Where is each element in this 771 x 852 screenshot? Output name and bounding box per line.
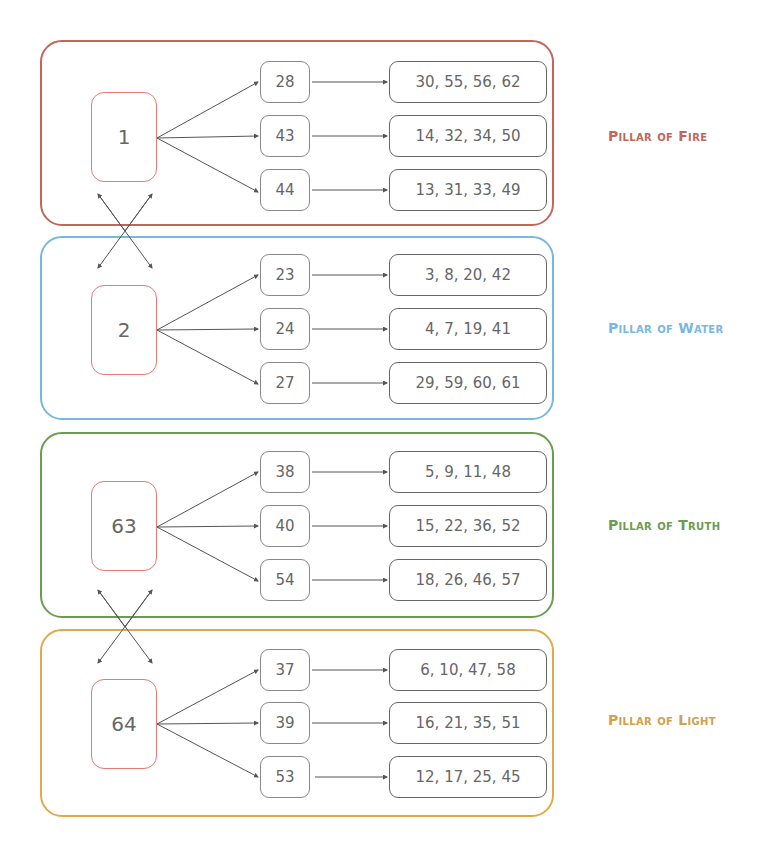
mid-node: 37 bbox=[260, 649, 310, 691]
mid-node: 44 bbox=[260, 169, 310, 211]
mid-node: 38 bbox=[260, 451, 310, 493]
leaf-node: 13, 31, 33, 49 bbox=[389, 169, 547, 211]
mid-node: 28 bbox=[260, 61, 310, 103]
mid-node: 53 bbox=[260, 756, 310, 798]
mid-node: 27 bbox=[260, 362, 310, 404]
root-node-fire: 1 bbox=[91, 92, 157, 182]
mid-node: 54 bbox=[260, 559, 310, 601]
mid-node: 39 bbox=[260, 702, 310, 744]
mid-node: 43 bbox=[260, 115, 310, 157]
leaf-node: 18, 26, 46, 57 bbox=[389, 559, 547, 601]
root-node-water: 2 bbox=[91, 285, 157, 375]
leaf-node: 6, 10, 47, 58 bbox=[389, 649, 547, 691]
leaf-node: 3, 8, 20, 42 bbox=[389, 254, 547, 296]
root-node-light: 64 bbox=[91, 679, 157, 769]
leaf-node: 30, 55, 56, 62 bbox=[389, 61, 547, 103]
root-node-truth: 63 bbox=[91, 481, 157, 571]
leaf-node: 14, 32, 34, 50 bbox=[389, 115, 547, 157]
pillar-label-fire: Pillar of Fire bbox=[608, 128, 707, 144]
leaf-node: 29, 59, 60, 61 bbox=[389, 362, 547, 404]
pillar-label-light: Pillar of Light bbox=[608, 712, 716, 728]
pillar-label-truth: Pillar of Truth bbox=[608, 517, 720, 533]
leaf-node: 12, 17, 25, 45 bbox=[389, 756, 547, 798]
leaf-node: 15, 22, 36, 52 bbox=[389, 505, 547, 547]
leaf-node: 16, 21, 35, 51 bbox=[389, 702, 547, 744]
mid-node: 24 bbox=[260, 308, 310, 350]
leaf-node: 4, 7, 19, 41 bbox=[389, 308, 547, 350]
mid-node: 40 bbox=[260, 505, 310, 547]
pillar-label-water: Pillar of Water bbox=[608, 320, 724, 336]
mid-node: 23 bbox=[260, 254, 310, 296]
leaf-node: 5, 9, 11, 48 bbox=[389, 451, 547, 493]
